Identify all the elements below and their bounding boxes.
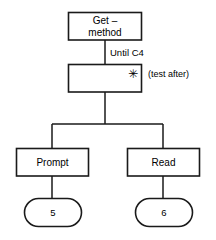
node-label-read: Read [152, 157, 176, 168]
edge-label-until-condition: Until C4 [110, 47, 144, 58]
node-label-6: 6 [161, 207, 166, 218]
structure-diagram: Get – method Until C4 ✳ (test after) Pro… [0, 0, 216, 240]
node-label-prompt: Prompt [36, 157, 68, 168]
node-label-get-method-line2: method [88, 27, 121, 38]
diagram-canvas: Get – method Until C4 ✳ (test after) Pro… [0, 0, 216, 240]
iteration-asterisk-icon: ✳ [128, 67, 138, 81]
node-label-5: 5 [50, 207, 55, 218]
annotation-test-after: (test after) [148, 69, 189, 79]
node-label-get-method-line1: Get – [93, 15, 118, 26]
